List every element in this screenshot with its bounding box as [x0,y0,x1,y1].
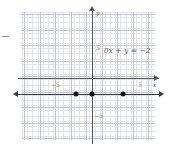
solution-line-right-arrow-icon [159,91,164,97]
y-tick-label-negative-5: −5 [94,112,103,119]
plotted-point [90,92,95,97]
edge-tick-mark [2,36,9,37]
y-tick-label-positive-5: 5 [96,44,100,51]
grid-major-lines [22,12,155,140]
y-axis [92,8,93,144]
solution-line [16,94,161,95]
x-axis-label: x [153,81,156,88]
graph-screenshot: x y −5 5 5 −5 0x + y = −2 [0,0,179,152]
coordinate-plane: x y −5 5 5 −5 0x + y = −2 [22,12,155,140]
x-axis [18,78,159,79]
equation-annotation: 0x + y = −2 [104,47,151,55]
x-tick-label-negative-5: −5 [51,81,60,88]
plotted-point [121,92,126,97]
solution-line-left-arrow-icon [13,91,18,97]
y-axis-arrow-icon [89,6,95,11]
x-tick-label-positive-5: 5 [138,81,142,88]
plotted-point [74,92,79,97]
y-axis-label: y [96,9,99,16]
